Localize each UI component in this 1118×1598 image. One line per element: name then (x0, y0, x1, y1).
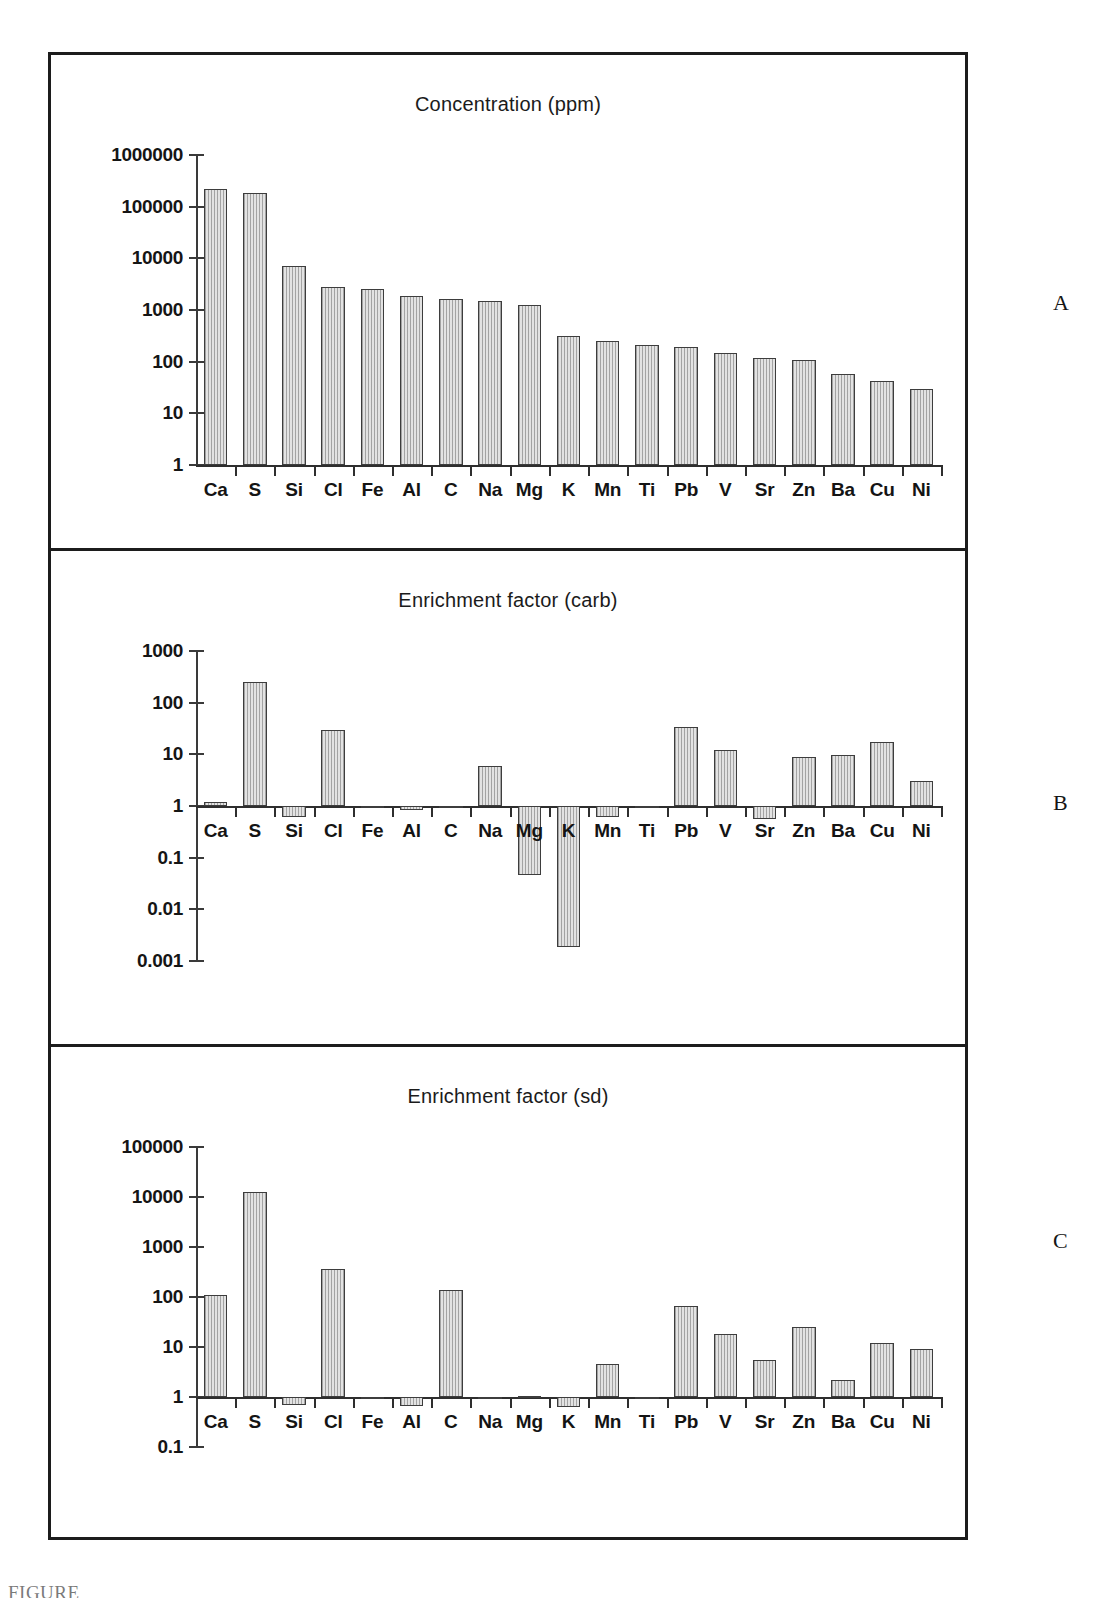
chart-bar (518, 305, 542, 465)
x-axis-tick-label: S (235, 820, 274, 842)
x-axis-tick-label: V (706, 479, 745, 501)
x-tick-mark (431, 465, 433, 476)
x-tick-mark (353, 806, 355, 817)
x-axis-tick-label: Ti (627, 1411, 666, 1433)
chart-bar (910, 781, 934, 806)
x-axis-tick-label: Al (392, 820, 431, 842)
x-tick-mark (823, 465, 825, 476)
chart-bar (753, 1360, 777, 1397)
chart-bar (243, 193, 267, 465)
chart-bar (714, 353, 738, 465)
chart-bar (439, 299, 463, 465)
x-tick-mark (235, 1397, 237, 1408)
x-axis-tick-label: Ca (196, 1411, 235, 1433)
chart-bar (910, 1349, 934, 1397)
x-tick-mark (314, 465, 316, 476)
chart-bar (243, 1192, 267, 1397)
chart-bar (674, 1306, 698, 1397)
x-tick-mark (353, 1397, 355, 1408)
x-tick-mark (392, 465, 394, 476)
y-axis-tick-label: 1 (173, 454, 196, 476)
panel-letter-b: B (1053, 790, 1068, 816)
chart-bar (753, 806, 777, 819)
x-axis-tick-label: Pb (667, 820, 706, 842)
x-tick-mark (549, 465, 551, 476)
chart-bar (831, 755, 855, 806)
chart-bar (439, 806, 463, 808)
chart-bar (361, 806, 385, 808)
chart-bar (518, 1396, 542, 1398)
y-axis-tick-label: 10000 (132, 247, 196, 269)
chart-c-plot-area: 1000001000010001001010.1CaSSiClFeAlCNaMg… (196, 1147, 941, 1447)
chart-bar (361, 1397, 385, 1399)
x-axis-tick-label: C (431, 820, 470, 842)
x-tick-mark (274, 1397, 276, 1408)
x-tick-mark (274, 806, 276, 817)
x-axis-tick-label: K (549, 1411, 588, 1433)
x-axis-tick-label: Fe (353, 479, 392, 501)
chart-bar (870, 381, 894, 465)
chart-bar (557, 1397, 581, 1407)
chart-panel-b: Enrichment factor (carb) 10001001010.10.… (51, 551, 965, 1047)
chart-bar (831, 1380, 855, 1397)
x-tick-mark (941, 806, 943, 817)
x-tick-mark (392, 806, 394, 817)
x-axis-tick-label: Zn (784, 479, 823, 501)
chart-bar (635, 345, 659, 465)
x-tick-mark (470, 465, 472, 476)
x-tick-mark (274, 465, 276, 476)
x-tick-mark (902, 806, 904, 817)
x-axis-tick-label: Sr (745, 820, 784, 842)
x-tick-mark (863, 465, 865, 476)
x-axis-tick-label: Fe (353, 1411, 392, 1433)
x-tick-mark (314, 1397, 316, 1408)
x-axis-tick-label: Si (274, 1411, 313, 1433)
x-axis-tick-label: Sr (745, 1411, 784, 1433)
y-axis-tick-label: 100000 (121, 196, 196, 218)
x-axis-tick-label: Pb (667, 1411, 706, 1433)
chart-bar (321, 730, 345, 806)
chart-bar (792, 1327, 816, 1397)
x-tick-mark (902, 465, 904, 476)
chart-bar (831, 374, 855, 465)
x-tick-mark (549, 806, 551, 817)
chart-bar (282, 806, 306, 817)
y-axis-tick-label: 10000 (132, 1186, 196, 1208)
chart-bar (478, 301, 502, 465)
x-axis-tick-label: Na (470, 820, 509, 842)
x-tick-mark (588, 806, 590, 817)
y-axis-tick-label: 1 (173, 1386, 196, 1408)
figure-frame: Concentration (ppm) 11010010001000010000… (48, 52, 968, 1540)
y-axis-tick-label: 0.001 (137, 950, 196, 972)
x-axis-tick-label: Cu (863, 1411, 902, 1433)
chart-bar (243, 682, 267, 806)
y-axis-tick-label: 1000 (142, 299, 196, 321)
chart-bar (400, 1397, 424, 1406)
y-axis-tick-label: 1000000 (111, 144, 196, 166)
x-tick-mark (863, 806, 865, 817)
x-axis-tick-label: Sr (745, 479, 784, 501)
y-axis-tick-label: 1000 (142, 640, 196, 662)
chart-bar (870, 1343, 894, 1397)
x-axis-tick-label: Al (392, 1411, 431, 1433)
x-axis-tick-label: Ca (196, 820, 235, 842)
chart-bar (674, 727, 698, 806)
x-tick-mark (667, 1397, 669, 1408)
chart-bar (204, 189, 228, 465)
chart-bar (204, 802, 228, 806)
chart-bar (400, 296, 424, 465)
x-tick-mark (823, 806, 825, 817)
y-axis-tick-label: 0.1 (157, 847, 196, 869)
x-axis-tick-label: Mg (510, 820, 549, 842)
chart-bar (792, 757, 816, 806)
x-axis-tick-label: Al (392, 479, 431, 501)
x-axis-tick-label: Ni (902, 1411, 941, 1433)
x-axis-tick-label: Ba (823, 1411, 862, 1433)
x-tick-mark (353, 465, 355, 476)
x-axis-line (196, 465, 941, 467)
x-axis-tick-label: Ti (627, 479, 666, 501)
x-axis-tick-label: Zn (784, 820, 823, 842)
chart-c-title: Enrichment factor (sd) (51, 1085, 965, 1108)
x-tick-mark (667, 465, 669, 476)
x-axis-tick-label: Mn (588, 479, 627, 501)
